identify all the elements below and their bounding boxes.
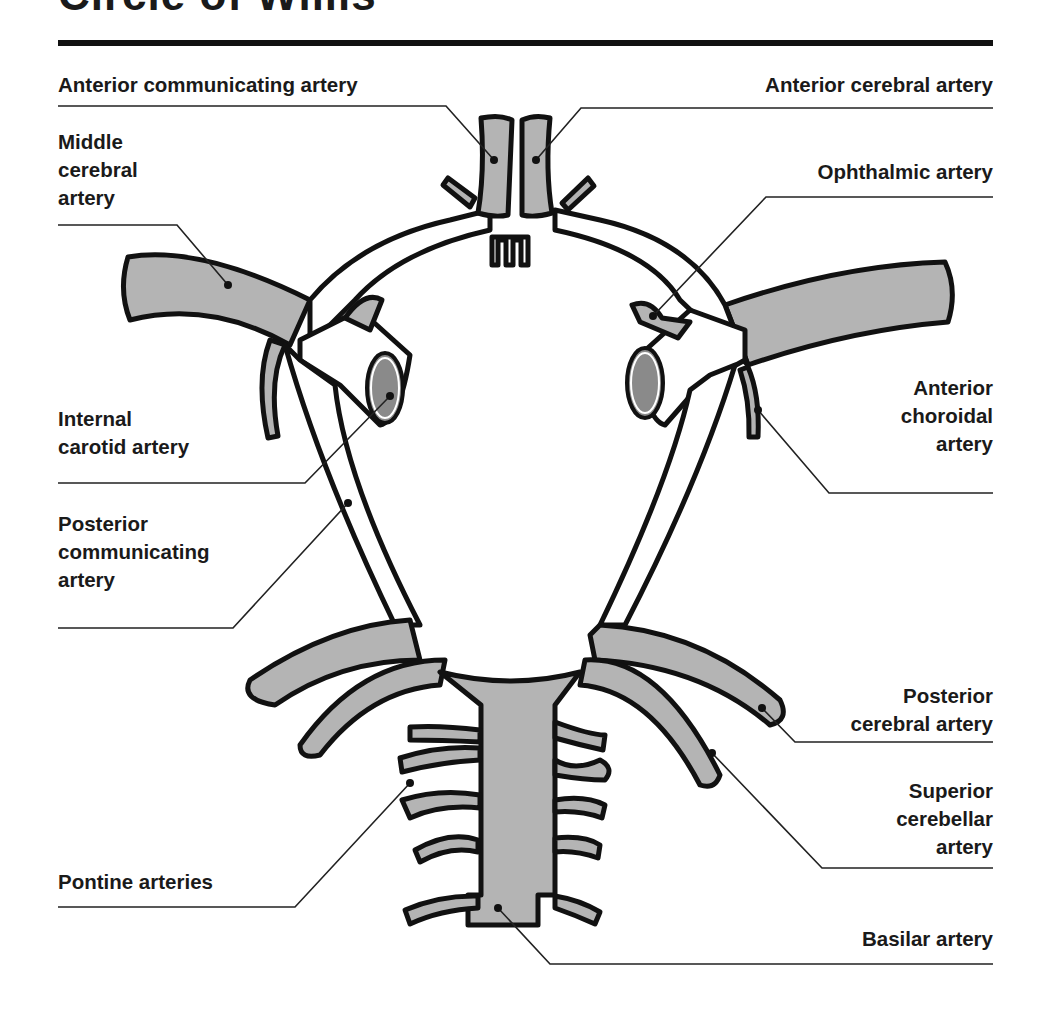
left-anterior-cerebral-artery <box>478 116 512 216</box>
anterior-communicating-artery <box>492 237 528 265</box>
label-anterior-communicating-artery: Anterior communicating artery <box>58 71 358 99</box>
right-anterior-cerebral-artery <box>522 116 552 216</box>
label-ophthalmic-artery: Ophthalmic artery <box>818 158 993 186</box>
label-basilar-artery: Basilar artery <box>862 925 993 953</box>
label-anterior-choroidal-artery: Anterior choroidal artery <box>901 374 993 458</box>
label-posterior-communicating-artery: Posterior communicating artery <box>58 510 210 594</box>
label-middle-cerebral-artery: Middle cerebral artery <box>58 128 138 212</box>
label-posterior-cerebral-artery: Posterior cerebral artery <box>851 682 993 738</box>
label-internal-carotid-artery: Internal carotid artery <box>58 405 189 461</box>
label-superior-cerebellar-artery: Superior cerebellar artery <box>896 777 993 861</box>
label-anterior-cerebral-artery: Anterior cerebral artery <box>765 71 993 99</box>
left-anterior-choroidal-artery <box>262 340 285 438</box>
circle-of-willis-diagram <box>0 0 1045 1015</box>
label-pontine-arteries: Pontine arteries <box>58 868 213 896</box>
left-ica-lumen <box>367 353 403 423</box>
left-middle-cerebral-artery <box>123 255 310 345</box>
right-middle-cerebral-artery <box>725 262 952 365</box>
right-anterior-choroidal-artery <box>740 367 758 437</box>
right-ica-lumen <box>627 348 663 418</box>
